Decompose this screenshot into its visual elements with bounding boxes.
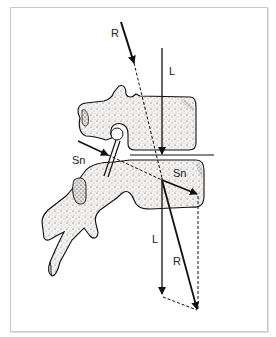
lower-facet	[73, 178, 86, 204]
label-sn-left: Sn	[72, 154, 85, 166]
label-l-top: L	[169, 65, 175, 77]
upper-vertebra-body	[78, 85, 196, 150]
label-r-top: R	[111, 27, 119, 39]
r-top-arrow	[121, 22, 134, 63]
vertebra-force-diagram: R L Sn Sn L R	[0, 0, 276, 337]
upper-vertebra	[78, 85, 196, 150]
label-l-bottom: L	[152, 233, 158, 245]
figure: R L Sn Sn L R	[0, 0, 276, 337]
dashed-diagonal	[163, 297, 197, 310]
label-r-bottom: R	[173, 255, 181, 267]
label-sn-right: Sn	[173, 167, 186, 179]
sn-left-arrow	[78, 141, 108, 155]
